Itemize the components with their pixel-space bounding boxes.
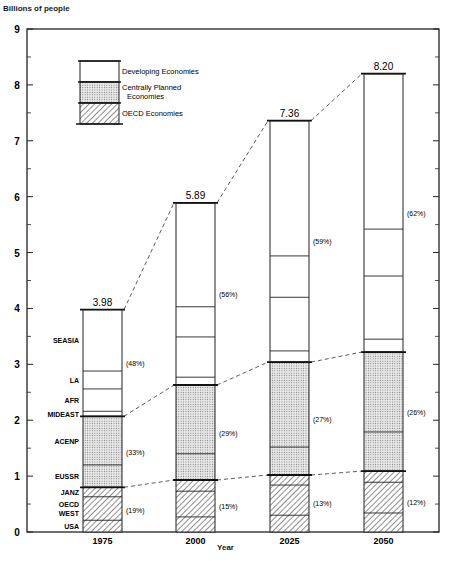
region-label: ACENP <box>54 438 79 445</box>
x-tick-label: 2025 <box>279 536 299 546</box>
share-label: (48%) <box>126 360 145 368</box>
total-label: 3.98 <box>93 297 113 308</box>
legend-centrally-planned: Centrally Planned <box>122 83 181 92</box>
share-label: (12%) <box>407 499 426 507</box>
y-tick-label: 0 <box>14 527 20 538</box>
legend-oecd: OECD Economies <box>122 109 183 118</box>
share-label: (56%) <box>219 291 238 299</box>
bar-2050: 8.20(12%)(26%)(62%)2050 <box>361 61 426 546</box>
share-label: (26%) <box>407 409 426 417</box>
share-label: (27%) <box>313 416 332 424</box>
region-label: EUSSR <box>55 473 79 480</box>
region-label: MIDEAST <box>48 411 80 418</box>
region-label: JANZ <box>61 489 80 496</box>
share-label: (33%) <box>126 449 145 457</box>
y-tick-label: 4 <box>14 303 20 314</box>
bar-1975: 3.98(19%)(33%)(48%)1975 <box>80 297 145 546</box>
y-tick-label: 3 <box>14 359 20 370</box>
x-tick-label: 2050 <box>373 536 393 546</box>
share-label: (29%) <box>219 430 238 438</box>
bars: 3.98(19%)(33%)(48%)19755.89(15%)(29%)(56… <box>48 61 426 546</box>
share-label: (62%) <box>407 210 426 218</box>
region-label: USA <box>64 523 79 530</box>
region-label: WEST <box>59 510 80 517</box>
y-tick-label: 7 <box>14 136 20 147</box>
share-label: (19%) <box>126 507 145 515</box>
legend-centrally-planned-2: Economies <box>127 92 164 101</box>
region-label: LA <box>70 377 79 384</box>
legend: Developing EconomiesCentrally PlannedEco… <box>76 61 199 124</box>
region-label: OECD <box>59 501 79 508</box>
stacked-bar-chart: Developing EconomiesCentrally PlannedEco… <box>0 0 451 561</box>
total-label: 8.20 <box>374 61 394 72</box>
y-tick-label: 1 <box>14 471 20 482</box>
y-tick-label: 9 <box>14 24 20 35</box>
total-label: 7.36 <box>280 108 300 119</box>
y-tick-label: 2 <box>14 415 20 426</box>
share-label: (15%) <box>219 503 238 511</box>
x-tick-label: 2000 <box>185 536 205 546</box>
total-label: 5.89 <box>186 190 206 201</box>
region-label: SEASIA <box>53 337 79 344</box>
legend-developing: Developing Economies <box>122 67 199 76</box>
region-label: AFR <box>65 397 79 404</box>
y-tick-label: 6 <box>14 192 20 203</box>
bar-2025: 7.36(13%)(27%)(59%)2025 <box>267 108 332 546</box>
share-label: (59%) <box>313 238 332 246</box>
x-tick-label: 1975 <box>92 536 112 546</box>
y-tick-label: 8 <box>14 80 20 91</box>
share-label: (13%) <box>313 500 332 508</box>
y-tick-label: 5 <box>14 248 20 259</box>
bar-2000: 5.89(15%)(29%)(56%)2000 <box>173 190 238 546</box>
